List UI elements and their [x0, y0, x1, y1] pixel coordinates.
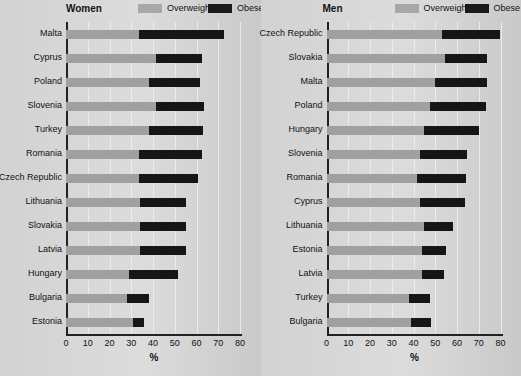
category-label: Cyprus — [33, 53, 62, 62]
bar-segment-overweight — [66, 150, 139, 159]
chart-page: Women Overweight Obese MaltaCyprusPoland… — [0, 0, 521, 376]
bar-segment-overweight — [66, 270, 129, 279]
category-label: Bulgaria — [289, 317, 322, 326]
x-tick-label: 60 — [191, 338, 201, 348]
bar-row: Romania — [66, 150, 240, 159]
bar-row: Slovakia — [66, 222, 240, 231]
panel-title-men: Men — [323, 3, 343, 14]
x-tick-label: 40 — [148, 338, 158, 348]
bar-row: Estonia — [327, 246, 501, 255]
bar-segment-obese — [156, 54, 202, 63]
category-label: Poland — [34, 77, 62, 86]
category-label: Malta — [300, 77, 322, 86]
category-label: Turkey — [35, 125, 62, 134]
category-label: Estonia — [292, 245, 322, 254]
category-label: Czech Republic — [259, 29, 322, 38]
legend-swatch-overweight — [395, 4, 419, 13]
legend-item-overweight: Overweight — [138, 3, 213, 13]
x-axis-line — [327, 334, 503, 336]
legend-swatch-obese — [465, 4, 489, 13]
bar-segment-obese — [422, 246, 446, 255]
x-tick-label: 40 — [408, 338, 418, 348]
x-tick-label: 80 — [495, 338, 505, 348]
plot-area-women: MaltaCyprusPolandSloveniaTurkeyRomaniaCz… — [66, 22, 240, 334]
category-label: Lithuania — [25, 197, 62, 206]
bar-segment-obese — [156, 102, 204, 111]
bar-segment-overweight — [327, 198, 421, 207]
plot-area-men: Czech RepublicSlovakiaMaltaPolandHungary… — [327, 22, 501, 334]
chart-panel-women: Women Overweight Obese MaltaCyprusPoland… — [0, 0, 261, 376]
bar-row: Hungary — [327, 126, 501, 135]
bar-segment-obese — [417, 174, 466, 183]
x-tick-label: 50 — [430, 338, 440, 348]
bar-segment-obese — [149, 78, 200, 87]
x-axis-ticks-women: 01020304050607080 — [66, 338, 242, 352]
bar-rows-men: Czech RepublicSlovakiaMaltaPolandHungary… — [327, 22, 501, 334]
x-tick-label: 0 — [63, 338, 68, 348]
bar-segment-overweight — [327, 102, 430, 111]
bar-segment-obese — [139, 150, 202, 159]
gridline — [501, 22, 502, 334]
bar-segment-overweight — [66, 78, 149, 87]
category-label: Hungary — [288, 125, 322, 134]
bar-row: Slovakia — [327, 54, 501, 63]
bar-row: Malta — [327, 78, 501, 87]
bar-segment-obese — [139, 30, 224, 39]
bar-row: Turkey — [327, 294, 501, 303]
category-label: Poland — [294, 101, 322, 110]
bar-row: Lithuania — [327, 222, 501, 231]
bar-segment-overweight — [66, 294, 127, 303]
bar-row: Romania — [327, 174, 501, 183]
bar-segment-obese — [133, 318, 144, 327]
bar-segment-obese — [420, 198, 465, 207]
bar-segment-obese — [129, 270, 178, 279]
legend-item-overweight: Overweight — [395, 3, 470, 13]
bar-segment-obese — [442, 30, 501, 39]
x-tick-label: 20 — [104, 338, 114, 348]
bar-segment-overweight — [327, 78, 436, 87]
bar-segment-obese — [409, 294, 430, 303]
x-tick-label: 0 — [324, 338, 329, 348]
x-tick-label: 60 — [452, 338, 462, 348]
category-label: Slovenia — [27, 101, 62, 110]
bar-segment-obese — [140, 246, 186, 255]
bar-row: Malta — [66, 30, 240, 39]
bar-segment-overweight — [327, 246, 423, 255]
category-label: Bulgaria — [29, 293, 62, 302]
category-label: Slovakia — [28, 221, 62, 230]
bar-row: Czech Republic — [327, 30, 501, 39]
bar-segment-obese — [140, 198, 186, 207]
bar-segment-obese — [139, 174, 198, 183]
bar-segment-overweight — [327, 294, 410, 303]
category-label: Slovakia — [288, 53, 322, 62]
bar-segment-overweight — [327, 222, 425, 231]
bar-row: Cyprus — [66, 54, 240, 63]
legend-label-overweight: Overweight — [167, 3, 213, 13]
bar-segment-obese — [435, 78, 487, 87]
bar-row: Slovenia — [327, 150, 501, 159]
category-label: Lithuania — [286, 221, 323, 230]
bar-segment-overweight — [327, 150, 421, 159]
bar-segment-overweight — [66, 174, 139, 183]
legend-label-obese: Obese — [494, 3, 521, 13]
bar-segment-obese — [430, 102, 487, 111]
bar-segment-overweight — [327, 318, 412, 327]
bar-row: Latvia — [66, 246, 240, 255]
bar-row: Cyprus — [327, 198, 501, 207]
category-label: Latvia — [38, 245, 62, 254]
bar-segment-obese — [424, 222, 452, 231]
panel-title-women: Women — [66, 3, 102, 14]
bar-row: Poland — [327, 102, 501, 111]
bar-segment-overweight — [66, 30, 139, 39]
bar-segment-overweight — [66, 126, 149, 135]
bar-row: Bulgaria — [327, 318, 501, 327]
x-axis-ticks-men: 01020304050607080 — [327, 338, 503, 352]
bar-row: Lithuania — [66, 198, 240, 207]
x-tick-label: 20 — [365, 338, 375, 348]
x-tick-label: 30 — [387, 338, 397, 348]
bar-segment-obese — [445, 54, 487, 63]
x-axis-label-men: % — [327, 352, 503, 363]
bar-row: Estonia — [66, 318, 240, 327]
bar-segment-obese — [127, 294, 149, 303]
x-tick-label: 10 — [343, 338, 353, 348]
